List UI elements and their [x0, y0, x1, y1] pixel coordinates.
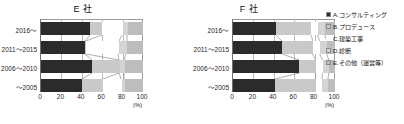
legend-swatch-a-icon: [326, 12, 331, 17]
bar-segment-b: [82, 79, 103, 92]
legend-item-c: C.建築工事: [326, 34, 404, 46]
bar-row: [41, 60, 143, 73]
x-axis-tick: 20: [243, 93, 261, 100]
bar-segment-b: [275, 79, 316, 92]
plot-frame-top: [233, 19, 335, 20]
bar-row: [41, 79, 143, 92]
bar-segment-d: [318, 22, 325, 35]
chart-panel-f: F 社: [190, 0, 320, 124]
y-axis-label: 2016〜: [0, 25, 37, 35]
bar-segment-b: [276, 22, 312, 35]
panel-title-f: F 社: [184, 2, 314, 15]
bar-segment-a: [233, 41, 282, 54]
bar-segment-a: [41, 22, 90, 35]
legend-swatch-b-icon: [326, 24, 331, 29]
legend-label-d: D.診断: [333, 46, 351, 55]
bar-segment-b: [282, 41, 313, 54]
bar-segment-e: [125, 79, 143, 92]
legend-label-a: A.コンサルティング: [333, 10, 387, 19]
bar-segment-c: [313, 41, 320, 54]
legend-item-e: E.その他（運営等）: [326, 58, 404, 70]
bar-row: [233, 60, 335, 73]
bar-segment-b: [92, 60, 120, 73]
x-axis-tick: 60: [284, 93, 302, 100]
bar-segment-a: [233, 60, 299, 73]
x-axis-tick: 0: [31, 93, 49, 100]
bar-segment-d: [119, 41, 127, 54]
bar-segment-a: [41, 41, 85, 54]
plot-frame-top: [41, 19, 143, 20]
x-axis-unit: (%): [133, 102, 142, 108]
bar-segment-e: [125, 60, 143, 73]
plot-area-e: [40, 19, 143, 92]
bar-segment-e: [127, 41, 143, 54]
y-axis-label: 2016〜: [189, 25, 229, 35]
legend-item-a: A.コンサルティング: [326, 10, 404, 22]
legend-label-b: B.プロデュース: [333, 22, 375, 31]
x-axis-tick: 40: [72, 93, 90, 100]
legend-label-e: E.その他（運営等）: [333, 58, 387, 67]
x-axis-tick: 100: [133, 93, 151, 100]
stacked-bar-chart-figure: E 社: [0, 0, 404, 124]
legend-item-d: D.診断: [326, 46, 404, 58]
bar-row: [41, 22, 143, 35]
legend-swatch-d-icon: [326, 48, 331, 53]
x-axis-unit: (%): [325, 102, 334, 108]
bar-segment-b: [90, 22, 102, 35]
bar-segment-a: [41, 79, 82, 92]
y-axis-label: 〜2005: [0, 82, 37, 92]
bar-segment-c: [103, 79, 121, 92]
legend-label-c: C.建築工事: [333, 34, 363, 43]
bar-segment-a: [41, 60, 92, 73]
y-axis-label: 〜2005: [189, 82, 229, 92]
x-axis-tick: 40: [264, 93, 282, 100]
panel-title-e: E 社: [0, 2, 178, 15]
chart-panel-e: E 社: [0, 0, 190, 124]
bar-segment-e: [328, 79, 335, 92]
legend-swatch-c-icon: [326, 36, 331, 41]
chart-legend: A.コンサルティング B.プロデュース C.建築工事 D.診断 E.その他（運営…: [326, 10, 404, 70]
bar-segment-a: [233, 79, 275, 92]
y-axis-label: 2006〜2010: [189, 63, 229, 73]
x-axis-tick: 80: [113, 93, 131, 100]
x-axis-tick: 0: [223, 93, 241, 100]
x-axis-tick: 80: [305, 93, 323, 100]
x-axis-tick: 100: [325, 93, 343, 100]
bar-segment-c: [316, 60, 323, 73]
legend-item-b: B.プロデュース: [326, 22, 404, 34]
bar-row: [233, 79, 335, 92]
bar-segment-e: [128, 22, 143, 35]
legend-swatch-e-icon: [326, 60, 331, 65]
x-axis-tick: 20: [51, 93, 69, 100]
plot-area-f: [232, 19, 335, 92]
x-axis-tick: 60: [92, 93, 110, 100]
bar-row: [233, 22, 335, 35]
bar-segment-c: [86, 41, 119, 54]
bar-segment-b: [299, 60, 315, 73]
y-axis-label: 2011〜2015: [189, 44, 229, 54]
y-axis-label: 2006〜2010: [0, 63, 37, 73]
bar-segment-a: [233, 22, 276, 35]
bar-row: [41, 41, 143, 54]
bar-row: [233, 41, 335, 54]
y-axis-label: 2011〜2015: [0, 44, 37, 54]
bar-segment-c: [102, 22, 122, 35]
